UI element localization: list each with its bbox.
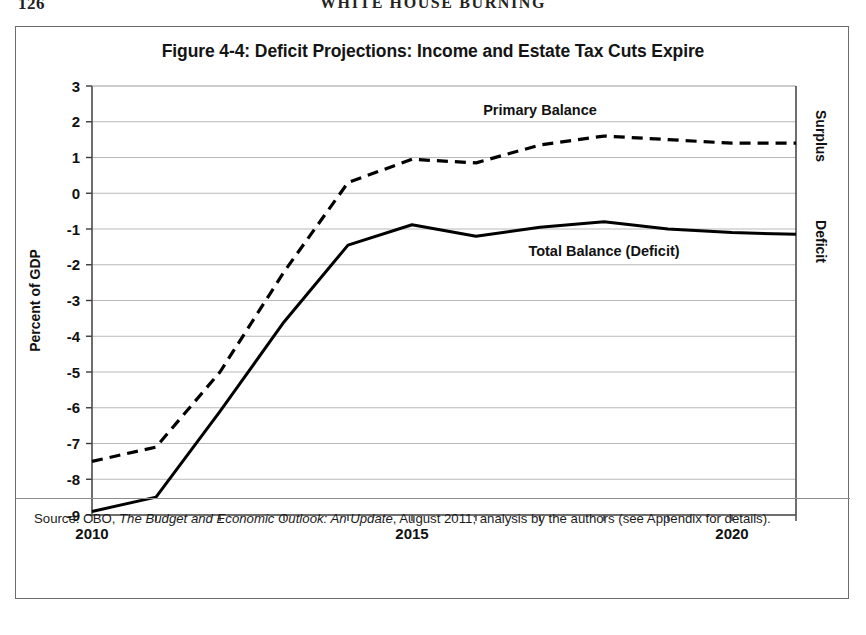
series-line-total-balance-deficit <box>92 222 796 512</box>
source-divider <box>16 498 850 499</box>
right-axis-deficit-label: Deficit <box>813 220 829 263</box>
y-axis-tick-label: 3 <box>72 78 80 95</box>
y-axis-tick-label: -1 <box>67 221 80 238</box>
source-note: Source: CBO, The Budget and Economic Out… <box>34 509 824 528</box>
y-axis-tick-label: 0 <box>72 185 80 202</box>
figure-container: Figure 4-4: Deficit Projections: Income … <box>15 26 849 599</box>
y-axis-tick-label: -8 <box>67 471 80 488</box>
y-axis-tick-label: -2 <box>67 256 80 273</box>
series-label: Total Balance (Deficit) <box>528 243 679 259</box>
source-publication-title: The Budget and Economic Outlook: An Upda… <box>119 511 393 526</box>
series-line-primary-balance <box>92 136 796 461</box>
series-label: Primary Balance <box>483 102 597 118</box>
y-axis-tick-label: 2 <box>72 113 80 130</box>
y-axis-tick-label: -7 <box>67 435 80 452</box>
y-axis-tick-label: -6 <box>67 399 80 416</box>
source-suffix: , August 2011; analysis by the authors (… <box>393 511 771 526</box>
book-running-title: WHITE HOUSE BURNING <box>0 0 866 12</box>
y-axis-tick-label: 1 <box>72 149 80 166</box>
line-chart-svg: 3210-1-2-3-4-5-6-7-8-9201020152020Primar… <box>16 27 850 547</box>
y-axis-tick-label: -4 <box>67 328 81 345</box>
y-axis-tick-label: -5 <box>67 364 80 381</box>
running-head: 126 WHITE HOUSE BURNING <box>0 0 866 22</box>
right-axis-surplus-label: Surplus <box>813 110 829 162</box>
source-prefix: Source: CBO, <box>34 511 119 526</box>
y-axis-title: Percent of GDP <box>27 249 43 352</box>
y-axis-tick-label: -3 <box>67 292 80 309</box>
